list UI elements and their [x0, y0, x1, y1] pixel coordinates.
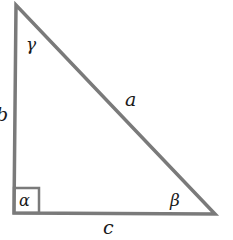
side-c-label: c — [103, 216, 114, 238]
angle-alpha-label: α — [19, 191, 30, 210]
angle-gamma-label: γ — [26, 34, 37, 54]
angle-beta-label: β — [169, 190, 180, 210]
right-triangle-diagram: γ α β a b c — [0, 0, 233, 240]
side-b-label: b — [0, 103, 8, 125]
side-a-label: a — [125, 88, 136, 110]
triangle-outline — [14, 5, 215, 214]
